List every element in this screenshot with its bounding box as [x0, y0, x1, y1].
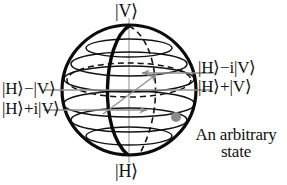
axis-label-h-minus-v: |H⟩−|V⟩	[2, 80, 56, 97]
axis-label-h-plus-i-v: |H⟩+i|V⟩	[2, 100, 60, 117]
pole-label-v: |V⟩	[115, 2, 138, 20]
arbitrary-state-dot	[171, 112, 181, 122]
axis-label-h-plus-v: |H⟩+|V⟩	[198, 78, 252, 95]
axis-label-h-minus-i-v: |H⟩−i|V⟩	[198, 59, 256, 76]
poincare-sphere-figure: |V⟩ |H⟩ |H⟩−|V⟩ |H⟩+i|V⟩ |H⟩−i|V⟩ |H⟩+|V…	[0, 0, 287, 185]
arbitrary-state-label-line2: state	[186, 143, 286, 160]
arbitrary-state-label: An arbitrarystate	[186, 126, 286, 160]
pole-label-h: |H⟩	[115, 162, 138, 180]
